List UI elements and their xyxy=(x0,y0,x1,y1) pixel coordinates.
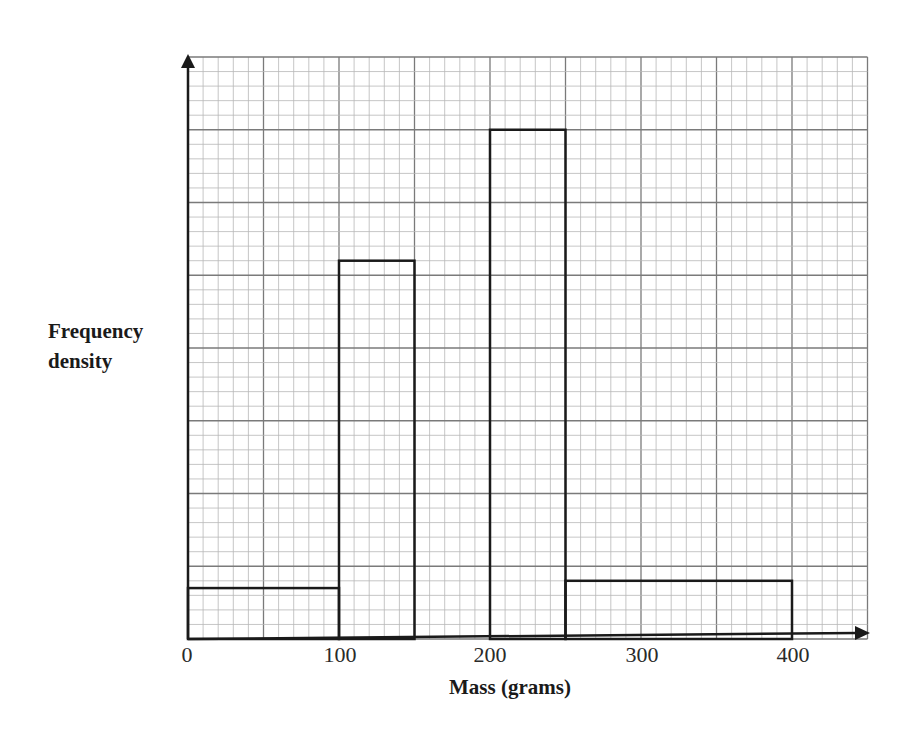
x-axis-label: Mass (grams) xyxy=(449,675,571,700)
x-tick-100: 100 xyxy=(324,642,357,668)
graph-paper-grid xyxy=(188,57,868,639)
y-axis-label: Frequency density xyxy=(48,316,143,376)
x-tick-200: 200 xyxy=(474,642,507,668)
x-tick-400: 400 xyxy=(777,642,810,668)
y-axis-label-line1: Frequency xyxy=(48,316,143,346)
y-axis-arrow-icon xyxy=(181,54,195,68)
y-axis-label-line2: density xyxy=(48,346,143,376)
x-tick-300: 300 xyxy=(626,642,659,668)
histogram-bar xyxy=(490,130,566,639)
x-tick-0: 0 xyxy=(182,642,193,668)
